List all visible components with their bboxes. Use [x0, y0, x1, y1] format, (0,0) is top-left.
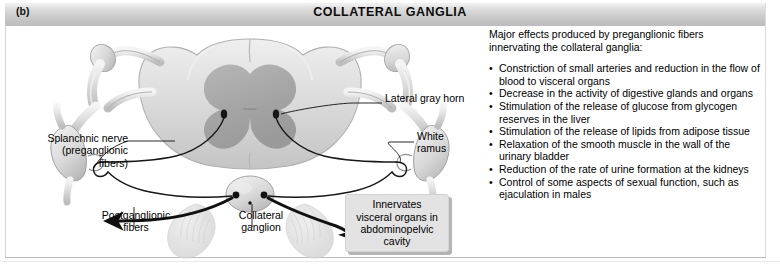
- preganglionic-neuron-soma-right: [273, 109, 279, 118]
- label-collateral-ganglion: Collateral ganglion: [213, 209, 309, 234]
- label-white-ramus: White ramus: [417, 130, 446, 155]
- callout-box-innervates: Innervates visceral organs in abdominope…: [345, 194, 449, 252]
- effects-list-item: Relaxation of the smooth muscle in the w…: [489, 138, 761, 163]
- dorsal-root-ganglion-right: [380, 40, 414, 76]
- figure-panel-b: (b) COLLATERAL GANGLIA: [0, 0, 780, 266]
- effects-list-item: Control of some aspects of sexual functi…: [489, 176, 761, 201]
- effects-list-item: Reduction of the rate of urine formation…: [489, 163, 761, 176]
- effects-list-item: Decrease in the activity of digestive gl…: [489, 87, 761, 100]
- label-splanchnic-nerve: Splanchnic nerve (preganglionic fibers): [6, 132, 128, 169]
- label-lateral-gray-horn: Lateral gray horn: [385, 92, 464, 104]
- effects-list: Constriction of small arteries and reduc…: [489, 62, 761, 201]
- effects-text-panel: Major effects produced by preganglionic …: [489, 28, 761, 201]
- figure-right-border: [765, 3, 766, 258]
- label-postganglionic-fibers: Postganglionic fibers: [84, 209, 188, 234]
- effects-list-item: Stimulation of the release of lipids fro…: [489, 125, 761, 138]
- leader-white-ramus: [388, 142, 400, 162]
- effects-list-item: Constriction of small arteries and reduc…: [489, 62, 761, 87]
- effects-intro: Major effects produced by preganglionic …: [489, 28, 761, 53]
- effects-list-item: Stimulation of the release of glucose fr…: [489, 100, 761, 125]
- dorsal-root-ganglion-left: [86, 40, 120, 76]
- spinal-cord-cross-section: [139, 39, 361, 169]
- page-title: COLLATERAL GANGLIA: [0, 5, 780, 19]
- callout-text: Innervates visceral organs in abdominope…: [353, 198, 441, 248]
- preganglionic-neuron-soma-left: [221, 109, 227, 118]
